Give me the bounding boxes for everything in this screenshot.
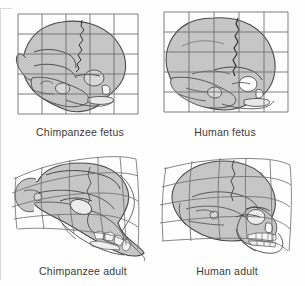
panel-chimpanzee-fetus — [10, 6, 150, 124]
page-edge-left — [0, 8, 1, 280]
caption-human-fetus: Human fetus — [152, 126, 298, 138]
caption-chimpanzee-fetus: Chimpanzee fetus — [10, 126, 150, 138]
panel-human-fetus — [152, 6, 298, 124]
caption-chimpanzee-adult: Chimpanzee adult — [8, 265, 158, 277]
comparative-skull-figure: Chimpanzee fetus — [0, 0, 305, 286]
panel-human-adult — [152, 145, 302, 263]
panel-chimpanzee-adult — [8, 145, 158, 263]
caption-human-adult: Human adult — [152, 265, 302, 277]
